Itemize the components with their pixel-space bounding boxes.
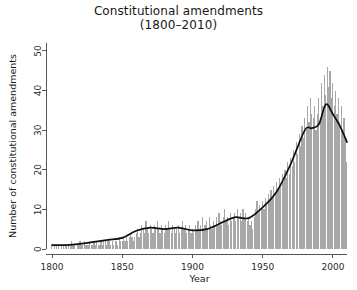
histogram-bar: [171, 233, 172, 249]
histogram-bars: [51, 67, 347, 249]
histogram-bar: [123, 237, 124, 249]
histogram-bar: [74, 245, 75, 249]
histogram-bar: [197, 221, 198, 249]
histogram-bar: [231, 221, 232, 249]
histogram-bar: [110, 245, 111, 249]
histogram-bar: [85, 245, 86, 249]
histogram-bar: [227, 217, 228, 249]
histogram-bar: [320, 118, 321, 249]
x-tick-label: 1800: [41, 262, 64, 272]
histogram-bar: [154, 225, 155, 249]
histogram-bar: [137, 229, 138, 249]
histogram-bar: [190, 233, 191, 249]
histogram-bar: [126, 237, 127, 249]
histogram-bar: [328, 87, 329, 249]
x-axis-title: Year: [188, 273, 209, 284]
histogram-bar: [317, 114, 318, 249]
histogram-bar: [293, 150, 294, 249]
histogram-bar: [284, 170, 285, 249]
histogram-bar: [183, 229, 184, 249]
histogram-bar: [318, 98, 319, 249]
histogram-bar: [275, 194, 276, 249]
x-tick-labels: 18001850190019502000: [41, 262, 345, 272]
histogram-bar: [106, 245, 107, 249]
histogram-bar: [127, 241, 128, 249]
histogram-bar: [192, 229, 193, 249]
histogram-bar: [214, 225, 215, 249]
histogram-bar: [241, 221, 242, 249]
histogram-bar: [321, 83, 322, 249]
histogram-bar: [195, 225, 196, 249]
histogram-bar: [218, 213, 219, 249]
histogram-bar: [159, 233, 160, 249]
y-tick-label: 10: [33, 203, 43, 215]
histogram-bar: [99, 245, 100, 249]
histogram-bar: [166, 229, 167, 249]
histogram-bar: [109, 241, 110, 249]
histogram-bar: [79, 241, 80, 249]
histogram-bar: [157, 221, 158, 249]
histogram-bar: [200, 225, 201, 249]
histogram-bar: [193, 233, 194, 249]
histogram-bar: [203, 229, 204, 249]
y-tick-labels: 01020304050: [33, 45, 43, 252]
histogram-bar: [296, 142, 297, 249]
histogram-bar: [100, 241, 101, 249]
histogram-bar: [233, 217, 234, 249]
histogram-bar: [280, 186, 281, 249]
histogram-bar: [202, 217, 203, 249]
histogram-bar: [220, 221, 221, 249]
y-tick-label: 0: [33, 246, 43, 252]
histogram-bar: [251, 221, 252, 249]
histogram-bar: [116, 241, 117, 249]
histogram-bar: [259, 205, 260, 249]
histogram-bar: [322, 106, 323, 249]
histogram-bar: [331, 98, 332, 249]
histogram-bar: [244, 217, 245, 249]
histogram-bar: [272, 198, 273, 250]
histogram-bar: [261, 209, 262, 249]
histogram-bar: [283, 182, 284, 249]
histogram-bar: [240, 213, 241, 249]
histogram-bar: [82, 245, 83, 249]
histogram-bar: [148, 233, 149, 249]
histogram-bar: [158, 229, 159, 249]
histogram-bar: [103, 241, 104, 249]
histogram-bar: [329, 71, 330, 249]
histogram-bar: [209, 217, 210, 249]
histogram-bar: [138, 237, 139, 249]
histogram-bar: [182, 221, 183, 249]
histogram-bar: [189, 225, 190, 249]
histogram-bar: [335, 91, 336, 249]
histogram-bar: [325, 95, 326, 250]
histogram-bar: [234, 213, 235, 249]
histogram-bar: [129, 237, 130, 249]
histogram-bar: [256, 201, 257, 249]
histogram-bar: [84, 241, 85, 249]
histogram-bar: [162, 229, 163, 249]
histogram-bar: [252, 229, 253, 249]
histogram-bar: [206, 221, 207, 249]
histogram-bar: [286, 178, 287, 249]
histogram-bar: [174, 229, 175, 249]
histogram-bar: [255, 209, 256, 249]
histogram-bar: [199, 229, 200, 249]
histogram-bar: [124, 241, 125, 249]
histogram-bar: [282, 174, 283, 249]
histogram-bar: [196, 229, 197, 249]
histogram-bar: [179, 233, 180, 249]
histogram-bar: [266, 205, 267, 249]
histogram-bar: [308, 122, 309, 249]
histogram-bar: [107, 241, 108, 249]
histogram-bar: [339, 122, 340, 249]
histogram-bar: [88, 245, 89, 249]
histogram-bar: [130, 233, 131, 249]
histogram-bar: [294, 162, 295, 249]
histogram-bar: [213, 221, 214, 249]
histogram-bar: [105, 241, 106, 249]
axes: [42, 43, 347, 258]
y-tick-label: 30: [33, 124, 43, 136]
histogram-bar: [224, 209, 225, 249]
histogram-bar: [168, 221, 169, 249]
histogram-bar: [301, 126, 302, 249]
